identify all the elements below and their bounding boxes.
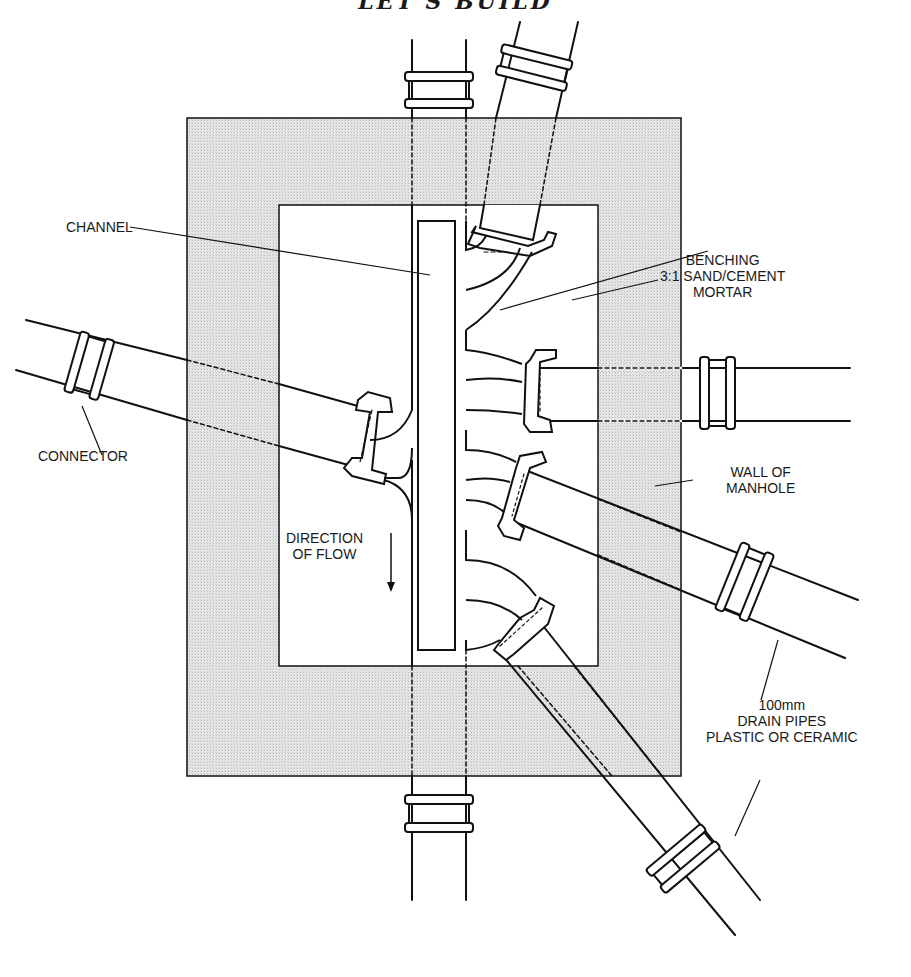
leader-pipes-bottom bbox=[735, 780, 760, 836]
label-benching-line2: 3:1 SAND/CEMENT bbox=[660, 268, 785, 284]
label-channel: CHANNEL bbox=[66, 219, 133, 235]
label-connector: CONNECTOR bbox=[38, 448, 128, 464]
label-pipes-line3: PLASTIC OR CERAMIC bbox=[706, 729, 858, 745]
label-drain-pipes: 100mm DRAIN PIPES PLASTIC OR CERAMIC bbox=[706, 697, 858, 745]
label-pipes-line1: 100mm bbox=[706, 697, 858, 713]
label-direction-of-flow: DIRECTION OF FLOW bbox=[286, 530, 363, 562]
page-title: LET'S BUILD bbox=[0, 0, 911, 14]
label-wall-line1: WALL OF bbox=[726, 464, 795, 480]
label-wall-line2: MANHOLE bbox=[726, 480, 795, 496]
label-wall: WALL OF MANHOLE bbox=[726, 464, 795, 496]
label-pipes-line2: DRAIN PIPES bbox=[706, 713, 858, 729]
label-benching-line1: BENCHING bbox=[660, 252, 785, 268]
label-benching-line3: MORTAR bbox=[660, 284, 785, 300]
manhole-diagram: LET'S BUILD bbox=[0, 0, 911, 977]
label-benching: BENCHING 3:1 SAND/CEMENT MORTAR bbox=[660, 252, 785, 300]
label-direction-line1: DIRECTION bbox=[286, 530, 363, 546]
leader-pipes-top bbox=[761, 640, 778, 700]
label-direction-line2: OF FLOW bbox=[286, 546, 363, 562]
